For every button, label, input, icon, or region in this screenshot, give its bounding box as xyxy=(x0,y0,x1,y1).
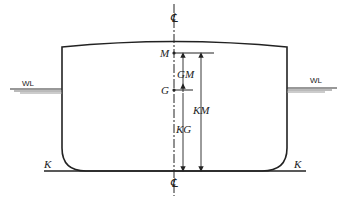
keel-right-label: K xyxy=(293,158,302,170)
metacenter-label: M xyxy=(159,47,170,59)
keel-left-label: K xyxy=(43,158,52,170)
waterline-left: WL xyxy=(10,79,62,93)
km-label: KM xyxy=(192,104,210,116)
gm-label: GM xyxy=(177,68,195,80)
centerline-top-symbol: ℄ xyxy=(170,11,178,25)
waterline-right-label: WL xyxy=(310,76,323,85)
ship-stability-diagram: WL WL ℄ ℄ M G GM KG KM K K xyxy=(0,0,346,197)
kg-label: KG xyxy=(175,123,191,135)
waterline-left-label: WL xyxy=(22,79,35,88)
center-of-gravity-label: G xyxy=(161,84,169,96)
centerline-bottom-symbol: ℄ xyxy=(170,176,178,190)
waterline-right: WL xyxy=(287,76,337,92)
